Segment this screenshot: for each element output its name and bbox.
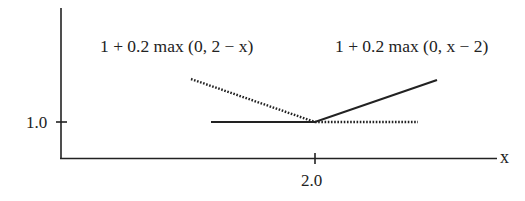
increasing-hinge-curve: [211, 80, 437, 122]
hinge-function-diagram: 1.0 2.0 x 1 + 0.2 max (0, 2 − x) 1 + 0.2…: [0, 0, 525, 201]
decreasing-hinge-formula: 1 + 0.2 max (0, 2 − x): [100, 36, 254, 56]
x-axis-label: x: [500, 147, 509, 167]
y-tick-label: 1.0: [26, 113, 47, 132]
increasing-hinge-formula: 1 + 0.2 max (0, x − 2): [335, 36, 489, 56]
x-tick-label: 2.0: [301, 171, 322, 190]
decreasing-hinge-curve: [191, 79, 418, 122]
